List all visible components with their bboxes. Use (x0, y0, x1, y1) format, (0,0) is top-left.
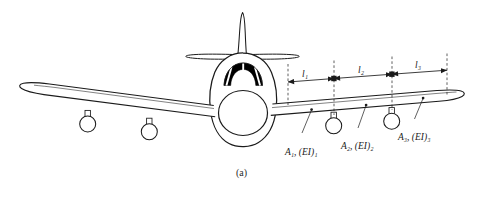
dimension-line-l1 (288, 79, 334, 83)
dimension-label-l2-text: l₂ (358, 65, 364, 75)
figure-caption: (a) (236, 168, 247, 178)
dimension-label-l1-text: l₁ (302, 69, 308, 79)
nacelle-left-inner (141, 118, 157, 140)
dimension-line-l3 (392, 70, 447, 74)
station-tick-1 (331, 76, 336, 81)
leader-line-a1 (302, 110, 312, 133)
segment-label-a1-text: A₁, (EI)₁ (285, 147, 317, 157)
dimension-label-l2: l₂ (358, 66, 364, 76)
nacelle-right-outer (384, 108, 400, 130)
leader-line-a2 (358, 106, 366, 129)
dimension-label-l3: l₃ (415, 61, 421, 71)
leader-dot-a2 (365, 104, 368, 107)
segment-label-a1: A₁, (EI)₁ (285, 148, 317, 158)
leader-dot-a1 (310, 108, 313, 111)
engine-intake (219, 91, 268, 136)
segment-label-a2: A₂, (EI)₂ (341, 142, 373, 152)
nacelle-left-outer (80, 110, 96, 132)
dimension-label-l1: l₁ (302, 70, 308, 80)
dimension-label-l3-text: l₃ (415, 60, 421, 70)
nacelle-right-inner (326, 112, 342, 134)
segment-label-a3-text: A₃, (EI)₃ (398, 132, 430, 142)
station-tick-2 (389, 72, 394, 77)
segment-label-a2-text: A₂, (EI)₂ (341, 141, 373, 151)
tail-fin (238, 13, 247, 58)
wing-right (271, 90, 464, 115)
aircraft-wing-figure: l₁ l₂ l₃ A₁, (EI)₁ A₂, (EI)₂ A₃, (EI)₃ (… (0, 0, 486, 198)
wing-left (20, 83, 216, 117)
leader-dot-a3 (422, 97, 425, 100)
segment-label-a3: A₃, (EI)₃ (398, 133, 430, 143)
